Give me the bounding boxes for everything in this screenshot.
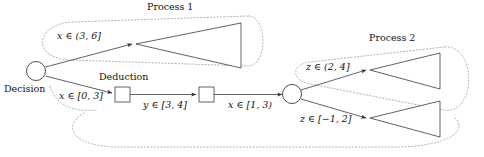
process-1-label: Process 1 — [147, 2, 193, 12]
process-2-label: Process 2 — [369, 33, 415, 43]
triangle-p2-upper-shape[interactable] — [370, 53, 440, 89]
edge-label-z-2-4: z ∈ (2, 4] — [306, 62, 350, 72]
deduction-node-shape[interactable] — [115, 87, 130, 102]
edge-label-x-3-6: x ∈ (3, 6] — [57, 31, 101, 41]
state-2-node-shape[interactable] — [199, 87, 214, 102]
deduction-node-label: Deduction — [99, 72, 148, 82]
edge-label-z-m1-2: z ∈ [−1, 2] — [300, 114, 352, 124]
edge-line-x-3-6 — [46, 44, 133, 67]
edge-label-x-0-3: x ∈ [0, 3] — [59, 91, 103, 101]
decision-node-label: Decision — [4, 84, 45, 94]
triangle-p1-shape[interactable] — [136, 23, 241, 68]
edge-label-x-1-3: x ∈ [1, 3) — [228, 100, 272, 110]
process-2-enclosure-outline — [296, 47, 469, 110]
junction-node-shape[interactable] — [283, 85, 302, 104]
edge-line-z-2-4 — [301, 70, 366, 90]
diagram-graphics — [0, 0, 484, 157]
edge-label-y-3-4: y ∈ [3, 4] — [143, 100, 187, 110]
triangle-p2-lower-shape[interactable] — [370, 101, 440, 137]
diagram-canvas: Process 1 Process 2 Decision Deduction x… — [0, 0, 484, 157]
decision-node-shape[interactable] — [27, 62, 46, 81]
